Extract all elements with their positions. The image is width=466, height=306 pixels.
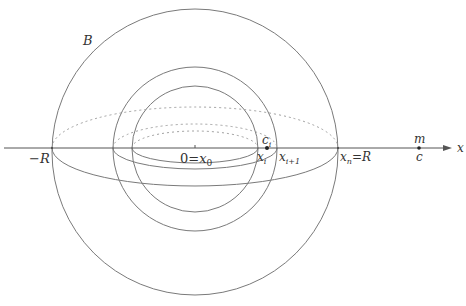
label-axis-x: x — [457, 141, 464, 155]
label-point-c: c — [416, 150, 423, 164]
point-xn — [337, 147, 339, 149]
axis-arrow-icon — [443, 145, 452, 151]
label-xn-eq-R: xn=R — [340, 150, 371, 166]
shell-circle-i-plus-1 — [113, 67, 277, 231]
label-xi-plus-1: xi+1 — [279, 150, 300, 166]
point-neg-R — [51, 147, 53, 149]
label-ci: ci — [262, 133, 272, 149]
outer-ellipse-back — [52, 107, 338, 148]
label-mass-m: m — [414, 132, 425, 146]
label-xi: xi — [257, 150, 267, 166]
label-origin: 0=x0 — [180, 151, 213, 168]
label-ball-B: B — [82, 33, 93, 48]
diagram-svg: B −R 0=x0 xi xi+1 ci xn=R m c x — [0, 0, 466, 306]
middle-ellipse-back — [113, 124, 277, 148]
label-neg-R: −R — [29, 151, 50, 166]
figure-canvas: B −R 0=x0 xi xi+1 ci xn=R m c x — [0, 0, 466, 306]
shell-circle-i — [132, 86, 258, 212]
